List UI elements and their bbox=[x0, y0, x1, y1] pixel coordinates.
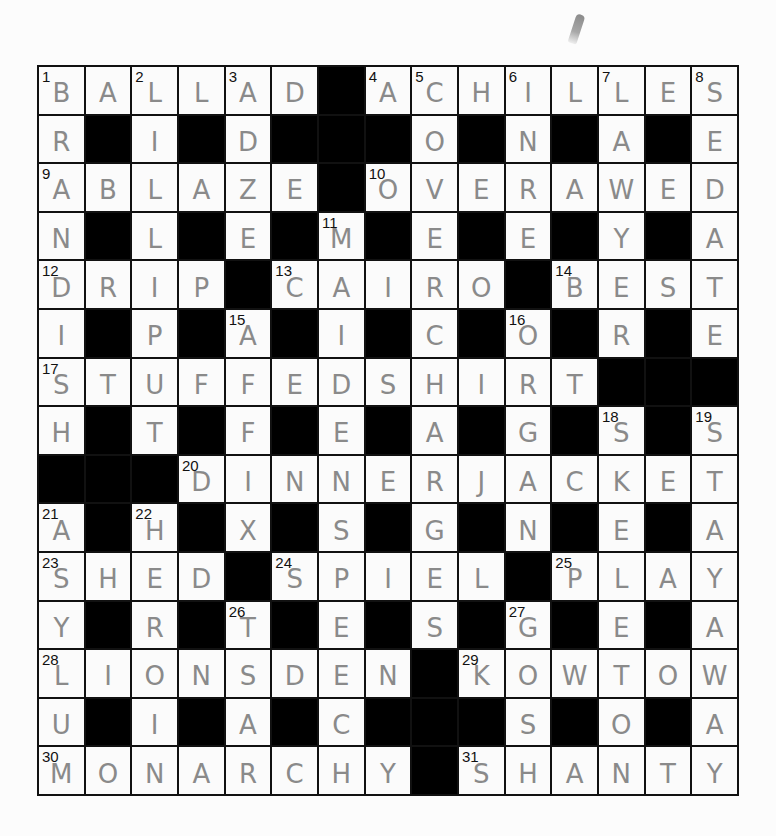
letter-cell[interactable]: U bbox=[132, 359, 177, 406]
letter-cell[interactable]: 29K bbox=[459, 650, 504, 697]
letter-cell[interactable]: 8S bbox=[692, 67, 737, 114]
letter-cell[interactable]: A bbox=[412, 407, 457, 454]
letter-cell[interactable]: A bbox=[179, 164, 224, 211]
letter-cell[interactable]: E bbox=[366, 456, 411, 503]
letter-cell[interactable]: E bbox=[132, 553, 177, 600]
letter-cell[interactable]: H bbox=[39, 407, 84, 454]
letter-cell[interactable]: 14B bbox=[552, 261, 597, 308]
letter-cell[interactable]: F bbox=[226, 359, 271, 406]
letter-cell[interactable]: R bbox=[506, 359, 551, 406]
letter-cell[interactable]: R bbox=[86, 261, 131, 308]
letter-cell[interactable]: 17S bbox=[39, 359, 84, 406]
letter-cell[interactable]: 16O bbox=[506, 310, 551, 357]
letter-cell[interactable]: S bbox=[412, 602, 457, 649]
letter-cell[interactable]: A bbox=[599, 116, 644, 163]
letter-cell[interactable]: 1B bbox=[39, 67, 84, 114]
letter-cell[interactable]: R bbox=[599, 310, 644, 357]
letter-cell[interactable]: R bbox=[412, 261, 457, 308]
letter-cell[interactable]: W bbox=[692, 650, 737, 697]
letter-cell[interactable]: O bbox=[646, 650, 691, 697]
letter-cell[interactable]: O bbox=[506, 650, 551, 697]
letter-cell[interactable]: G bbox=[506, 407, 551, 454]
letter-cell[interactable]: 27G bbox=[506, 602, 551, 649]
letter-cell[interactable]: O bbox=[412, 116, 457, 163]
letter-cell[interactable]: E bbox=[272, 359, 317, 406]
letter-cell[interactable]: L bbox=[459, 553, 504, 600]
letter-cell[interactable]: H bbox=[506, 747, 551, 794]
letter-cell[interactable]: N bbox=[506, 504, 551, 551]
letter-cell[interactable]: A bbox=[692, 699, 737, 746]
letter-cell[interactable]: H bbox=[459, 67, 504, 114]
letter-cell[interactable]: I bbox=[366, 553, 411, 600]
letter-cell[interactable]: L bbox=[132, 164, 177, 211]
letter-cell[interactable]: E bbox=[692, 116, 737, 163]
letter-cell[interactable]: E bbox=[319, 602, 364, 649]
letter-cell[interactable]: N bbox=[319, 456, 364, 503]
letter-cell[interactable]: T bbox=[86, 359, 131, 406]
letter-cell[interactable]: I bbox=[39, 310, 84, 357]
letter-cell[interactable]: S bbox=[506, 699, 551, 746]
letter-cell[interactable]: P bbox=[319, 553, 364, 600]
letter-cell[interactable]: E bbox=[412, 213, 457, 260]
letter-cell[interactable]: R bbox=[132, 602, 177, 649]
letter-cell[interactable]: N bbox=[366, 650, 411, 697]
letter-cell[interactable]: I bbox=[132, 116, 177, 163]
letter-cell[interactable]: F bbox=[179, 359, 224, 406]
letter-cell[interactable]: N bbox=[179, 650, 224, 697]
letter-cell[interactable]: A bbox=[552, 747, 597, 794]
letter-cell[interactable]: 11M bbox=[319, 213, 364, 260]
letter-cell[interactable]: 5C bbox=[412, 67, 457, 114]
letter-cell[interactable]: E bbox=[319, 407, 364, 454]
letter-cell[interactable]: Y bbox=[366, 747, 411, 794]
letter-cell[interactable]: H bbox=[319, 747, 364, 794]
letter-cell[interactable]: 12D bbox=[39, 261, 84, 308]
letter-cell[interactable]: E bbox=[646, 456, 691, 503]
letter-cell[interactable]: 9A bbox=[39, 164, 84, 211]
letter-cell[interactable]: A bbox=[86, 67, 131, 114]
letter-cell[interactable]: U bbox=[39, 699, 84, 746]
letter-cell[interactable]: 24S bbox=[272, 553, 317, 600]
letter-cell[interactable]: T bbox=[692, 456, 737, 503]
letter-cell[interactable]: 4A bbox=[366, 67, 411, 114]
letter-cell[interactable]: A bbox=[179, 747, 224, 794]
letter-cell[interactable]: E bbox=[272, 164, 317, 211]
letter-cell[interactable]: 22H bbox=[132, 504, 177, 551]
letter-cell[interactable]: 18S bbox=[599, 407, 644, 454]
letter-cell[interactable]: W bbox=[552, 650, 597, 697]
letter-cell[interactable]: Z bbox=[226, 164, 271, 211]
letter-cell[interactable]: D bbox=[692, 164, 737, 211]
letter-cell[interactable]: D bbox=[272, 67, 317, 114]
letter-cell[interactable]: 20D bbox=[179, 456, 224, 503]
letter-cell[interactable]: H bbox=[86, 553, 131, 600]
letter-cell[interactable]: 30M bbox=[39, 747, 84, 794]
letter-cell[interactable]: E bbox=[646, 67, 691, 114]
letter-cell[interactable]: 21A bbox=[39, 504, 84, 551]
letter-cell[interactable]: N bbox=[599, 747, 644, 794]
letter-cell[interactable]: D bbox=[272, 650, 317, 697]
letter-cell[interactable]: Y bbox=[692, 747, 737, 794]
letter-cell[interactable]: Y bbox=[39, 602, 84, 649]
letter-cell[interactable]: A bbox=[226, 699, 271, 746]
letter-cell[interactable]: P bbox=[132, 310, 177, 357]
letter-cell[interactable]: O bbox=[86, 747, 131, 794]
letter-cell[interactable]: O bbox=[459, 261, 504, 308]
letter-cell[interactable]: S bbox=[319, 504, 364, 551]
letter-cell[interactable]: E bbox=[599, 504, 644, 551]
letter-cell[interactable]: A bbox=[692, 504, 737, 551]
letter-cell[interactable]: L bbox=[552, 67, 597, 114]
letter-cell[interactable]: H bbox=[412, 359, 457, 406]
letter-cell[interactable]: 19S bbox=[692, 407, 737, 454]
letter-cell[interactable]: E bbox=[599, 261, 644, 308]
letter-cell[interactable]: 13C bbox=[272, 261, 317, 308]
letter-cell[interactable]: D bbox=[319, 359, 364, 406]
letter-cell[interactable]: C bbox=[272, 747, 317, 794]
letter-cell[interactable]: K bbox=[599, 456, 644, 503]
letter-cell[interactable]: T bbox=[599, 650, 644, 697]
letter-cell[interactable]: 3A bbox=[226, 67, 271, 114]
letter-cell[interactable]: X bbox=[226, 504, 271, 551]
letter-cell[interactable]: A bbox=[692, 602, 737, 649]
letter-cell[interactable]: 23S bbox=[39, 553, 84, 600]
letter-cell[interactable]: I bbox=[459, 359, 504, 406]
letter-cell[interactable]: E bbox=[692, 310, 737, 357]
letter-cell[interactable]: E bbox=[599, 602, 644, 649]
